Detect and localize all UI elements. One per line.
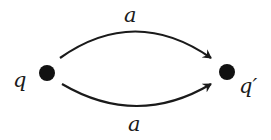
node-q-prime-label: q′ [239, 76, 257, 97]
node-q [39, 65, 55, 81]
lower-edge-label: a [128, 114, 141, 135]
node-q-prime [219, 64, 235, 80]
node-q-label: q [13, 70, 26, 91]
upper-edge-arrow [60, 32, 211, 59]
lower-edge-arrow [62, 84, 211, 106]
diagram-canvas: q q′ a a [0, 0, 271, 140]
upper-edge-label: a [124, 5, 137, 26]
